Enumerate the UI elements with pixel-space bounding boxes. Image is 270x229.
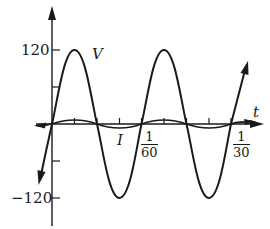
fraction-denominator: 60 [141, 145, 158, 159]
voltage-arrow-down-icon [38, 170, 46, 185]
voltage-arrow-up-icon [241, 61, 249, 75]
y-tick-label-neg-120: −120 [11, 191, 52, 206]
fraction-denominator: 30 [233, 145, 250, 159]
curve-label-v: V [92, 47, 103, 62]
fraction-numerator: 1 [233, 130, 250, 145]
x-tick-label-1-30: 1 30 [233, 130, 250, 159]
x-tick-label-1-60: 1 60 [141, 130, 158, 159]
y-axis-arrow-icon [48, 6, 56, 20]
y-tick-label-120: 120 [21, 43, 50, 58]
x-axis-label-t: t [253, 105, 259, 120]
fraction-numerator: 1 [141, 130, 158, 145]
curve-label-i: I [117, 133, 123, 148]
